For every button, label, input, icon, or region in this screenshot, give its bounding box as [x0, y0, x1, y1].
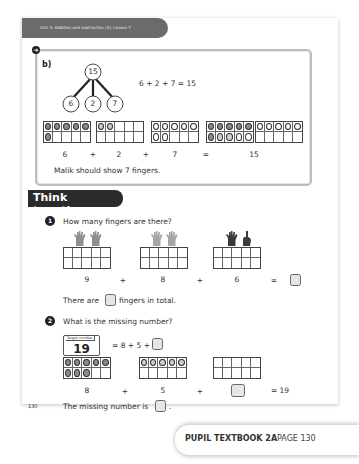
row-value-6: 6 [60, 150, 70, 159]
hand-four-icon [89, 230, 103, 247]
question-1-badge: 1 [45, 216, 55, 226]
row-value-7: 7 [170, 150, 180, 159]
row-value-15: 15 [248, 150, 260, 159]
q2-result: = 19 [270, 386, 290, 395]
hand-three-icon [165, 230, 179, 247]
hand-five-icon [225, 230, 239, 247]
q2-value-5: 5 [158, 386, 168, 395]
part-b-label: b) [42, 60, 51, 69]
plus-sign: + [120, 387, 130, 396]
ten-frame-8 [63, 357, 111, 379]
plus-sign: + [118, 276, 128, 285]
textbook-page-reference: PUPIL TEXTBOOK 2A PAGE 130 [175, 425, 359, 455]
equals-sign: = [201, 150, 211, 159]
q1-sentence-start: There are [63, 296, 99, 305]
ten-frame-empty-missing [213, 357, 261, 379]
q2-sentence-end: . [169, 402, 171, 411]
q2-missing-number-input-box[interactable] [155, 400, 166, 412]
equals-sign: = [269, 276, 279, 285]
plus-sign: + [141, 150, 151, 159]
think-together-title: Think together [33, 191, 123, 217]
part-b-equation: 6 + 2 + 7 = 15 [139, 79, 196, 88]
footer-page: PAGE 130 [277, 434, 316, 443]
q2-equation-answer-box[interactable] [152, 338, 163, 350]
ten-frame-empty-2 [140, 247, 188, 269]
ten-frame-7 [151, 121, 199, 143]
q1-sentence-end: fingers in total. [119, 296, 176, 305]
unit-header-tab: Unit 3: Addition and subtraction (2), Le… [22, 18, 168, 38]
row-value-2: 2 [114, 150, 124, 159]
hand-five-icon [150, 230, 164, 247]
ten-frame-15-a [206, 121, 254, 143]
think-together-banner: Think together [28, 190, 123, 207]
q1-value-6: 6 [232, 275, 242, 284]
part-value-1: 6 [66, 99, 76, 108]
target-number-label: Target number [66, 336, 95, 341]
arrow-right-icon: ➜ [32, 46, 40, 54]
q1-answer-box[interactable] [290, 274, 301, 286]
ten-frame-15-b [255, 121, 303, 143]
footer-book-title: PUPIL TEXTBOOK 2A [185, 434, 277, 443]
question-1-text: How many fingers are there? [63, 217, 172, 226]
target-number-box: Target number 19 [63, 335, 100, 356]
q1-value-9: 9 [82, 275, 92, 284]
plus-sign: + [195, 387, 205, 396]
ten-frame-5 [139, 357, 187, 379]
part-b-conclusion: Malik should show 7 fingers. [54, 166, 160, 175]
q1-total-input-box[interactable] [105, 294, 116, 306]
question-2-text: What is the missing number? [63, 317, 173, 326]
target-number-value: 19 [64, 342, 99, 356]
q2-missing-answer-box[interactable] [231, 384, 245, 397]
q1-value-8: 8 [158, 275, 168, 284]
part-value-3: 7 [110, 99, 120, 108]
q2-sentence-start: The missing number is [63, 402, 148, 411]
page-number: 130 [28, 403, 38, 409]
unit-label: Unit 3: Addition and subtraction (2), Le… [40, 25, 131, 30]
q2-value-8: 8 [82, 386, 92, 395]
hand-one-icon [241, 230, 253, 247]
ten-frame-empty-3 [213, 247, 261, 269]
q2-equation: = 8 + 5 + [112, 341, 150, 350]
ten-frame-empty-1 [63, 247, 111, 269]
hand-five-icon [73, 230, 87, 247]
ten-frame-2 [96, 121, 144, 143]
ten-frame-6 [43, 121, 91, 143]
plus-sign: + [195, 276, 205, 285]
part-value-2: 2 [88, 99, 98, 108]
plus-sign: + [88, 150, 98, 159]
whole-value: 15 [88, 67, 98, 76]
question-2-badge: 2 [45, 316, 55, 326]
